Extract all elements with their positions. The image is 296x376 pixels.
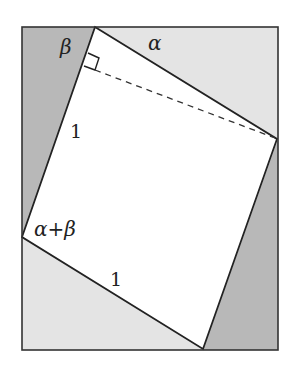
sine-addition-diagram: β α 1 α+β 1 xyxy=(0,0,296,376)
label-alpha-top: α xyxy=(148,31,162,55)
label-angle-left: α+β xyxy=(34,217,76,241)
label-side-bottom: 1 xyxy=(110,268,122,290)
label-side-left: 1 xyxy=(70,120,82,142)
label-beta-top: β xyxy=(59,35,72,59)
